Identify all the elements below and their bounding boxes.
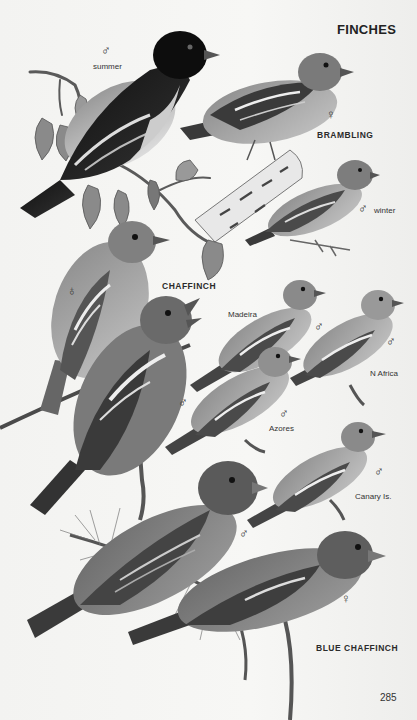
species-name-brambling: BRAMBLING (317, 130, 373, 140)
male-symbol: ♂ (239, 527, 249, 540)
finches-illustration (0, 0, 417, 720)
figure-note-summer: summer (93, 62, 122, 71)
species-name-blue-chaffinch: BLUE CHAFFINCH (316, 643, 398, 653)
male-symbol: ♂ (279, 407, 289, 420)
bird-chaffinch-canary-is (247, 422, 386, 528)
species-name-chaffinch: CHAFFINCH (162, 281, 216, 291)
male-symbol: ♂ (386, 335, 396, 348)
figure-note-azores: Azores (269, 424, 294, 433)
figure-note-madeira: Madeira (228, 310, 257, 319)
section-title: FINCHES (337, 22, 396, 37)
female-symbol: ♀ (326, 108, 336, 121)
figure-note-canary-is: Canary Is. (355, 492, 391, 501)
field-guide-page: FINCHES ♂ summer ♀ BRAMBLING ♂ winter CH… (0, 0, 417, 720)
page-number: 285 (380, 692, 397, 703)
male-symbol: ♂ (178, 396, 188, 409)
figure-note-winter: winter (374, 206, 395, 215)
male-symbol: ♂ (358, 202, 368, 215)
female-symbol: ♀ (67, 285, 77, 298)
male-symbol: ♂ (314, 320, 324, 333)
male-symbol: ♂ (374, 465, 384, 478)
male-symbol: ♂ (101, 44, 111, 57)
female-symbol: ♀ (341, 592, 351, 605)
figure-note-n-africa: N Africa (370, 369, 398, 378)
